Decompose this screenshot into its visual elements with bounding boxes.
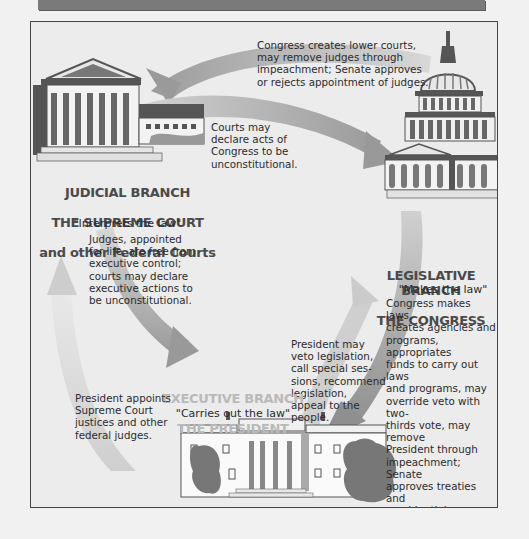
arrow-label-courts-to-congress: Courts may declare acts of Congress to b… bbox=[211, 121, 298, 170]
legislative-branch-description: Congress makes laws, creates agencies an… bbox=[386, 297, 497, 508]
title-bar bbox=[38, 0, 485, 10]
judicial-branch-motto: "Interprets the law" bbox=[35, 217, 220, 230]
checks-balances-diagram: Congress creates lower courts, may remov… bbox=[30, 21, 498, 508]
arrow-label-congress-to-courts: Congress creates lower courts, may remov… bbox=[257, 39, 429, 88]
legislative-branch-motto: "Makes the law" bbox=[393, 283, 493, 296]
executive-branch-motto: "Carries out the law" bbox=[158, 407, 308, 420]
executive-branch-heading: EXECUTIVE BRANCH THE PRESIDENT bbox=[158, 376, 308, 436]
arrow-label-president-to-courts: President appoints Supreme Court justice… bbox=[75, 392, 171, 441]
judicial-branch-description: Judges, appointed for life, are free fro… bbox=[89, 233, 196, 306]
